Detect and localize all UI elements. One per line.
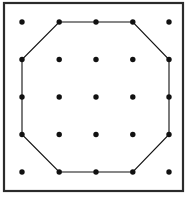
grid-dot[interactable] [93,57,98,62]
grid-dot[interactable] [93,19,98,24]
grid-dot[interactable] [19,57,24,62]
grid-dot[interactable] [166,132,171,137]
grid-dot[interactable] [57,169,62,174]
grid-dot[interactable] [93,169,98,174]
grid-dot[interactable] [166,94,171,99]
grid-dot[interactable] [130,19,135,24]
grid-dot[interactable] [19,169,24,174]
grid-dot[interactable] [166,57,171,62]
grid-dot[interactable] [166,19,171,24]
grid-dot[interactable] [130,57,135,62]
grid-dot[interactable] [19,19,24,24]
grid-dot[interactable] [57,57,62,62]
grid-dot[interactable] [57,94,62,99]
grid-dot[interactable] [166,169,171,174]
grid-dot[interactable] [57,19,62,24]
geoboard-canvas [0,0,188,201]
grid-dot[interactable] [93,132,98,137]
geoboard-figure [0,0,188,201]
grid-dot[interactable] [19,94,24,99]
grid-dot[interactable] [130,94,135,99]
grid-dot[interactable] [19,132,24,137]
grid-dot[interactable] [130,132,135,137]
grid-dot[interactable] [57,132,62,137]
grid-dot[interactable] [93,94,98,99]
grid-dot[interactable] [130,169,135,174]
